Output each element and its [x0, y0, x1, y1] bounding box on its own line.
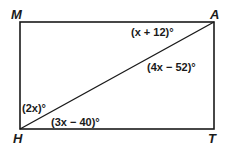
- angle-label-mah: (x + 12)°: [131, 26, 174, 38]
- vertex-label-a: A: [209, 7, 219, 22]
- angle-label-mha: (2x)°: [22, 102, 46, 114]
- angle-label-hat: (4x − 52)°: [147, 61, 196, 73]
- rectangle-diagram: M A H T (x + 12)° (4x − 52)° (2x)° (3x −…: [0, 0, 229, 152]
- vertex-label-m: M: [11, 7, 23, 22]
- vertex-label-h: H: [13, 131, 23, 146]
- angle-label-aht: (3x − 40)°: [51, 116, 100, 128]
- diagonal-ha: [20, 22, 214, 129]
- vertex-label-t: T: [208, 131, 217, 146]
